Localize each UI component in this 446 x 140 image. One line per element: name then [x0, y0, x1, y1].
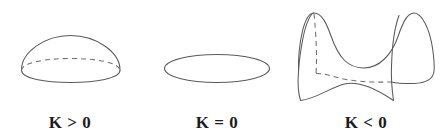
saddle-back-edge-path [298, 13, 432, 72]
label-zero-curvature: K = 0 [196, 114, 238, 131]
dome-front-rim-path [22, 71, 121, 83]
label-negative-curvature: K < 0 [345, 114, 387, 131]
dome-outline-path [21, 36, 120, 71]
plane-ellipse-shape [165, 55, 270, 83]
dome-surface-group [21, 36, 120, 83]
dome-hidden-equator-path [22, 59, 121, 71]
gaussian-curvature-figure: K > 0 K = 0 K < 0 [0, 0, 446, 140]
saddle-right-outer-edge-path [392, 48, 435, 84]
plane-surface-group [165, 55, 270, 83]
label-positive-curvature: K > 0 [49, 114, 91, 131]
saddle-hidden-back-bottom-path [316, 73, 392, 82]
saddle-hidden-vertical-edge-path [314, 14, 317, 74]
saddle-left-edge-path [298, 72, 300, 101]
saddle-front-bottom-edge-path [301, 83, 394, 100]
saddle-right-front-edge-path [391, 16, 399, 101]
saddle-surface-group [298, 13, 434, 101]
